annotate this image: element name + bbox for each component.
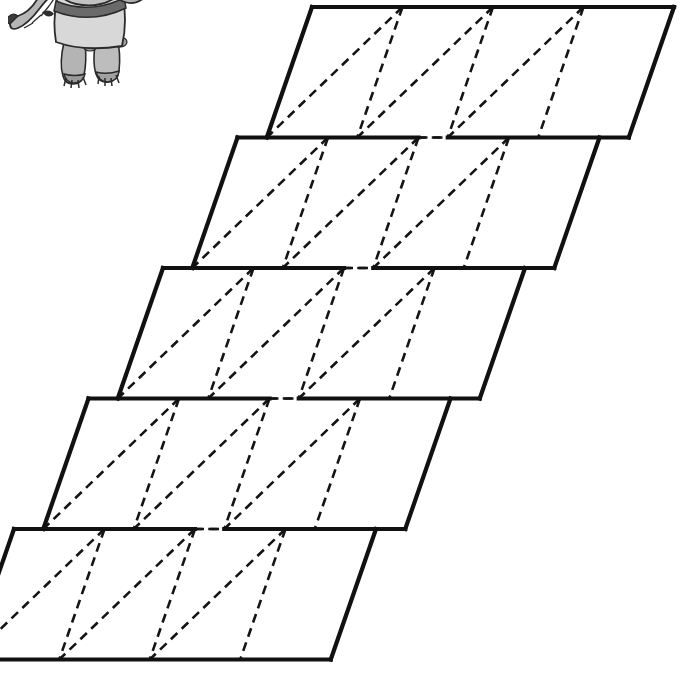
row-5-right-edge: [331, 529, 376, 660]
row-2-fold-down-3: [373, 138, 509, 269]
row-2-fold-up-1: [283, 138, 328, 269]
row-1-left-edge: [267, 7, 312, 138]
row-5-fold-up-3: [240, 529, 285, 660]
row-1-fold-up-3: [538, 7, 583, 138]
row-3-fold-down-1: [118, 268, 254, 399]
row-3-fold-down-2: [208, 268, 344, 399]
row-2-fold-up-2: [373, 138, 418, 269]
row-2-fold-down-1: [192, 138, 328, 269]
row-3-right-edge: [480, 268, 525, 399]
icosahedron-net-figure: [0, 0, 683, 686]
row-4-fold-down-2: [134, 399, 270, 530]
row-2-left-edge: [192, 138, 237, 269]
row-1-right-edge: [629, 7, 674, 138]
row-3-fold-up-1: [208, 268, 253, 399]
row-5-fold-down-3: [150, 529, 286, 660]
row-5-fold-up-2: [150, 529, 195, 660]
row-4-left-edge: [43, 399, 88, 530]
net-fold-lines-group: [0, 7, 600, 660]
row-1-fold-down-1: [267, 7, 403, 138]
elephant-clipart-svg: [8, 0, 178, 97]
elephant-tusk-lower: [42, 10, 54, 16]
worksheet-page: Icosahedron Net Flat net of an icosahedr…: [0, 0, 683, 686]
row-2-fold-up-3: [464, 138, 509, 269]
row-1-fold-down-3: [448, 7, 584, 138]
row-5-fold-down-1: [0, 529, 105, 660]
net-cut-lines-group: [0, 7, 674, 660]
row-5-fold-down-2: [59, 529, 195, 660]
row-1-fold-up-1: [357, 7, 402, 138]
row-3-fold-up-3: [389, 268, 434, 399]
row-4-fold-up-2: [224, 399, 269, 530]
row-5-fold-up-1: [59, 529, 104, 660]
row-2-fold-down-2: [283, 138, 419, 269]
row-4-right-edge: [405, 399, 450, 530]
row-4-fold-up-1: [134, 399, 179, 530]
mascot-illustration: [8, 0, 178, 97]
row-1-fold-up-2: [448, 7, 493, 138]
row-4-fold-down-3: [224, 399, 360, 530]
row-2-right-edge: [554, 138, 599, 269]
row-1-fold-down-2: [357, 7, 493, 138]
row-5-left-edge: [0, 529, 14, 660]
elephant-figure: [8, 0, 153, 88]
row-3-fold-down-3: [299, 268, 435, 399]
row-3-fold-up-2: [299, 268, 344, 399]
row-4-fold-down-1: [43, 399, 179, 530]
row-4-fold-up-3: [315, 399, 360, 530]
row-3-left-edge: [118, 268, 163, 399]
